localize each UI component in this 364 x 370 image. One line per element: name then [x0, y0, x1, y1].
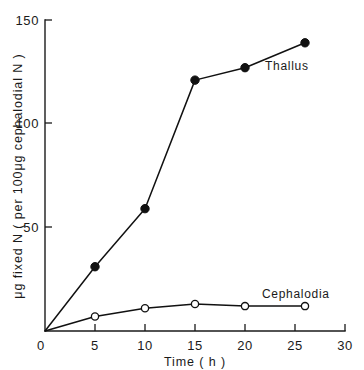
x-tick-label-10: 10 [137, 338, 153, 353]
x-tick-label-30: 30 [337, 338, 353, 353]
y-axis-title: μg fixed N ( per 100μg cephalodial N ) [11, 53, 25, 298]
x-tick-label-5: 5 [91, 338, 99, 353]
x-axis-ticks [95, 324, 345, 331]
y-tick-label-50: 50 [23, 220, 39, 235]
data-point [91, 263, 99, 271]
series-cephalodia [45, 300, 309, 331]
data-point [141, 305, 148, 312]
data-point [191, 76, 199, 84]
x-axis-title: Time ( h ) [164, 355, 226, 369]
data-point [191, 300, 198, 307]
y-axis-ticks [45, 20, 52, 227]
data-point [301, 39, 309, 47]
x-tick-label-15: 15 [187, 338, 203, 353]
data-point [141, 204, 149, 212]
y-tick-label-150: 150 [16, 13, 40, 28]
data-point [91, 313, 98, 320]
series-thallus-markers [91, 39, 309, 271]
x-tick-label-20: 20 [237, 338, 253, 353]
x-tick-label-25: 25 [287, 338, 303, 353]
figure-container: 150 100 50 0 5 10 15 20 25 30 Time ( h )… [0, 0, 364, 370]
data-point [241, 303, 248, 310]
y-tick-label-0: 0 [37, 338, 45, 353]
series-cephalodia-markers [91, 300, 308, 320]
line-chart: 150 100 50 0 5 10 15 20 25 30 Time ( h )… [0, 0, 364, 370]
series-label-cephalodia: Cephalodia [262, 287, 330, 301]
series-label-thallus: Thallus [265, 59, 309, 73]
series-cephalodia-line [45, 304, 305, 331]
data-point [301, 303, 308, 310]
data-point [241, 63, 249, 71]
